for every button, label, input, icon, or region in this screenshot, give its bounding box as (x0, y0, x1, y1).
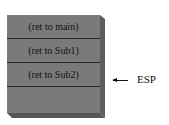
esp-label: ESP (137, 73, 156, 85)
arrow-left-icon (113, 80, 128, 81)
stack-cell: (ret to main) (7, 15, 100, 39)
stack-cell: (ret to Sub2) (7, 63, 100, 87)
stack-cell (7, 87, 100, 113)
stack: (ret to main) (ret to Sub1) (ret to Sub2… (7, 15, 100, 113)
stack-cell: (ret to Sub1) (7, 39, 100, 63)
stack-side-face (100, 15, 105, 118)
stack-bottom-face (7, 113, 105, 118)
